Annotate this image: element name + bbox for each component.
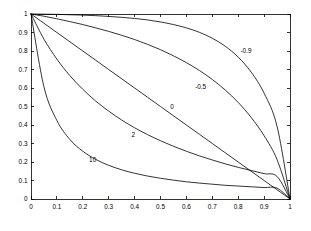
- y-tick-labels: 00.10.20.30.40.50.60.70.80.91: [19, 10, 28, 202]
- x-tick-label: 0: [29, 203, 33, 210]
- y-tick-label: 0.3: [19, 140, 28, 147]
- y-tick-label: 1: [24, 10, 28, 17]
- x-tick-label: 0.4: [130, 203, 139, 210]
- x-tick-label: 0.8: [234, 203, 243, 210]
- y-tick-label: 0.5: [19, 103, 28, 110]
- curve-label-0: 0: [170, 103, 174, 110]
- curve-label-10: 10: [89, 156, 97, 163]
- x-tick-label: 0.1: [52, 203, 61, 210]
- x-tick-label: 0.2: [78, 203, 87, 210]
- y-tick-label: 0.8: [19, 47, 28, 54]
- y-tick-label: 0.1: [19, 177, 28, 184]
- y-tick-label: 0: [24, 195, 28, 202]
- curve-label-2: 2: [132, 131, 136, 138]
- curves-group: [31, 14, 290, 199]
- x-tick-label: 0.3: [104, 203, 113, 210]
- x-tick-labels: 00.10.20.30.40.50.60.70.80.91: [29, 203, 292, 210]
- x-tick-label: 1: [288, 203, 292, 210]
- curve-label-neg0p5: -0.5: [195, 83, 206, 90]
- x-tick-label: 0.6: [182, 203, 191, 210]
- plot-area: 00.10.20.30.40.50.60.70.80.91 00.10.20.3…: [0, 0, 311, 231]
- y-tick-label: 0.9: [19, 29, 28, 36]
- curve-0: [31, 14, 290, 199]
- y-tick-label: 0.6: [19, 84, 28, 91]
- figure-canvas: 00.10.20.30.40.50.60.70.80.91 00.10.20.3…: [0, 0, 311, 231]
- y-tick-label: 0.4: [19, 121, 28, 128]
- x-tick-label: 0.7: [208, 203, 217, 210]
- y-tick-label: 0.7: [19, 66, 28, 73]
- curve-label-neg0p9: -0.9: [240, 47, 251, 54]
- y-tick-label: 0.2: [19, 158, 28, 165]
- x-tick-label: 0.5: [156, 203, 165, 210]
- x-tick-label: 0.9: [260, 203, 269, 210]
